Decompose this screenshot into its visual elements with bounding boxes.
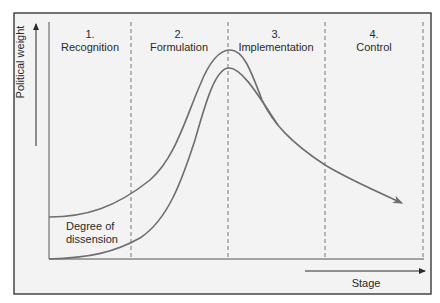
dissension-label: Degree of dissension bbox=[66, 220, 118, 246]
stage-number: 3. bbox=[228, 28, 324, 41]
stage-number: 4. bbox=[326, 28, 422, 41]
x-axis-label: Stage bbox=[340, 277, 392, 289]
stage-name: Implementation bbox=[228, 41, 324, 54]
stage-heading-control: 4. Control bbox=[326, 28, 422, 54]
stage-name: Formulation bbox=[131, 41, 227, 54]
dissension-label-line1: Degree of bbox=[66, 220, 118, 233]
stage-heading-implementation: 3. Implementation bbox=[228, 28, 324, 54]
stage-heading-recognition: 1. Recognition bbox=[42, 28, 138, 54]
y-axis-label: Political weight bbox=[14, 16, 26, 108]
diagram-frame bbox=[14, 13, 431, 294]
dissension-label-line2: dissension bbox=[66, 233, 118, 246]
stage-name: Control bbox=[326, 41, 422, 54]
stage-name: Recognition bbox=[42, 41, 138, 54]
stage-number: 1. bbox=[42, 28, 138, 41]
diagram-canvas: 1. Recognition 2. Formulation 3. Impleme… bbox=[0, 0, 440, 303]
stage-number: 2. bbox=[131, 28, 227, 41]
stage-heading-formulation: 2. Formulation bbox=[131, 28, 227, 54]
